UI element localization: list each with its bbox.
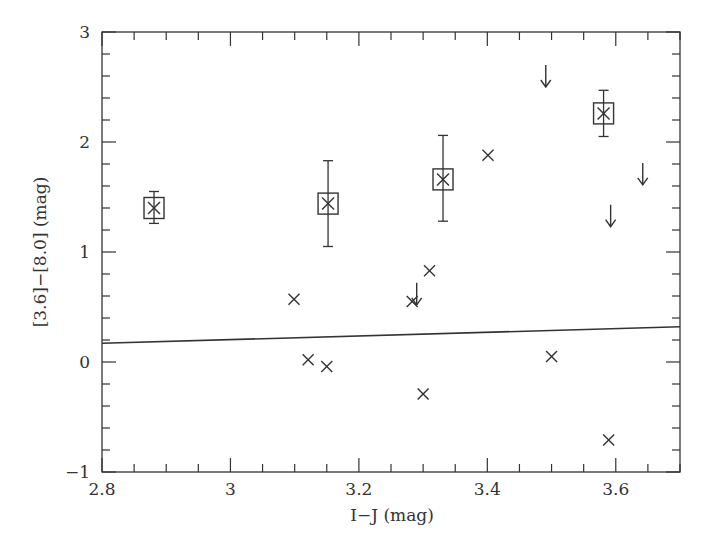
data-point: [603, 435, 614, 446]
y-tick-label: 1: [79, 242, 90, 262]
data-point: [321, 361, 332, 372]
x-tick-label: 3: [225, 479, 236, 499]
y-tick-label: −1: [65, 462, 90, 482]
y-axis-tick-labels: −10123: [65, 22, 90, 482]
data-point: [482, 150, 493, 161]
data-point: [606, 205, 616, 227]
y-tick-label: 3: [79, 22, 90, 42]
data-point: [412, 283, 422, 305]
data-point: [546, 351, 557, 362]
y-axis-label: [3.6]−[8.0] (mag): [30, 177, 50, 328]
data-point: [303, 354, 314, 365]
x-tick-label: 3.4: [474, 479, 501, 499]
x-axis-tick-labels: 2.833.23.43.6: [88, 479, 629, 499]
x-tick-label: 3.2: [345, 479, 372, 499]
y-tick-label: 0: [79, 352, 90, 372]
data-point: [318, 161, 338, 247]
data-point: [424, 265, 435, 276]
series-down-arrow: [412, 65, 648, 305]
data-point: [289, 294, 300, 305]
data-point: [433, 135, 453, 221]
series-cross-in-square: [144, 90, 614, 246]
y-tick-label: 2: [79, 132, 90, 152]
data-point: [144, 192, 164, 224]
x-axis-label: I−J (mag): [350, 505, 434, 525]
y-axis-ticks: [102, 32, 680, 472]
data-point: [541, 65, 551, 87]
x-axis-ticks: [102, 32, 680, 472]
plot-frame: [102, 32, 680, 472]
plot-border: [102, 32, 680, 472]
reference-line: [102, 327, 680, 344]
reference-line-segment: [102, 327, 680, 344]
x-tick-label: 2.8: [88, 479, 115, 499]
data-point: [594, 90, 614, 136]
data-point: [418, 388, 429, 399]
data-point: [638, 163, 648, 185]
data-series: [144, 65, 648, 446]
x-tick-label: 3.6: [602, 479, 629, 499]
scatter-chart: 2.833.23.43.6 −10123 I−J (mag) [3.6]−[8.…: [0, 0, 717, 550]
